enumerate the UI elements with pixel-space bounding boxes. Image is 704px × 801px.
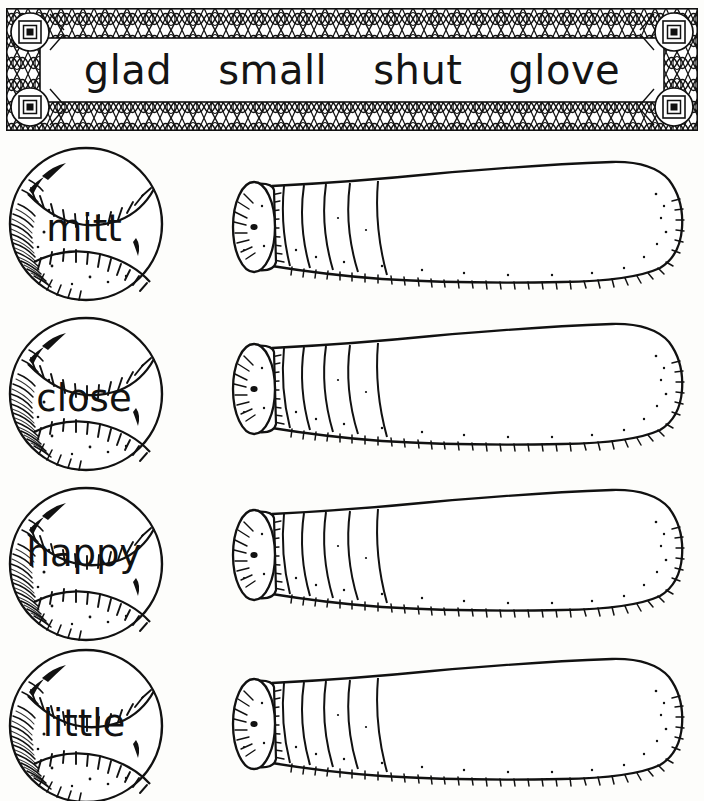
worksheet-page: glad small shut glove <box>0 0 704 801</box>
row-1-ball-mitt <box>10 148 162 300</box>
row-4-bat <box>233 659 684 786</box>
row-3-ball-happy <box>10 488 162 640</box>
row-3-bat <box>233 490 684 617</box>
row-2-bat <box>233 324 684 451</box>
row-4-ball-little <box>10 650 162 801</box>
worksheet-illustrations <box>0 0 704 801</box>
row-2-ball-close <box>10 318 162 470</box>
row-1-bat <box>233 162 684 289</box>
